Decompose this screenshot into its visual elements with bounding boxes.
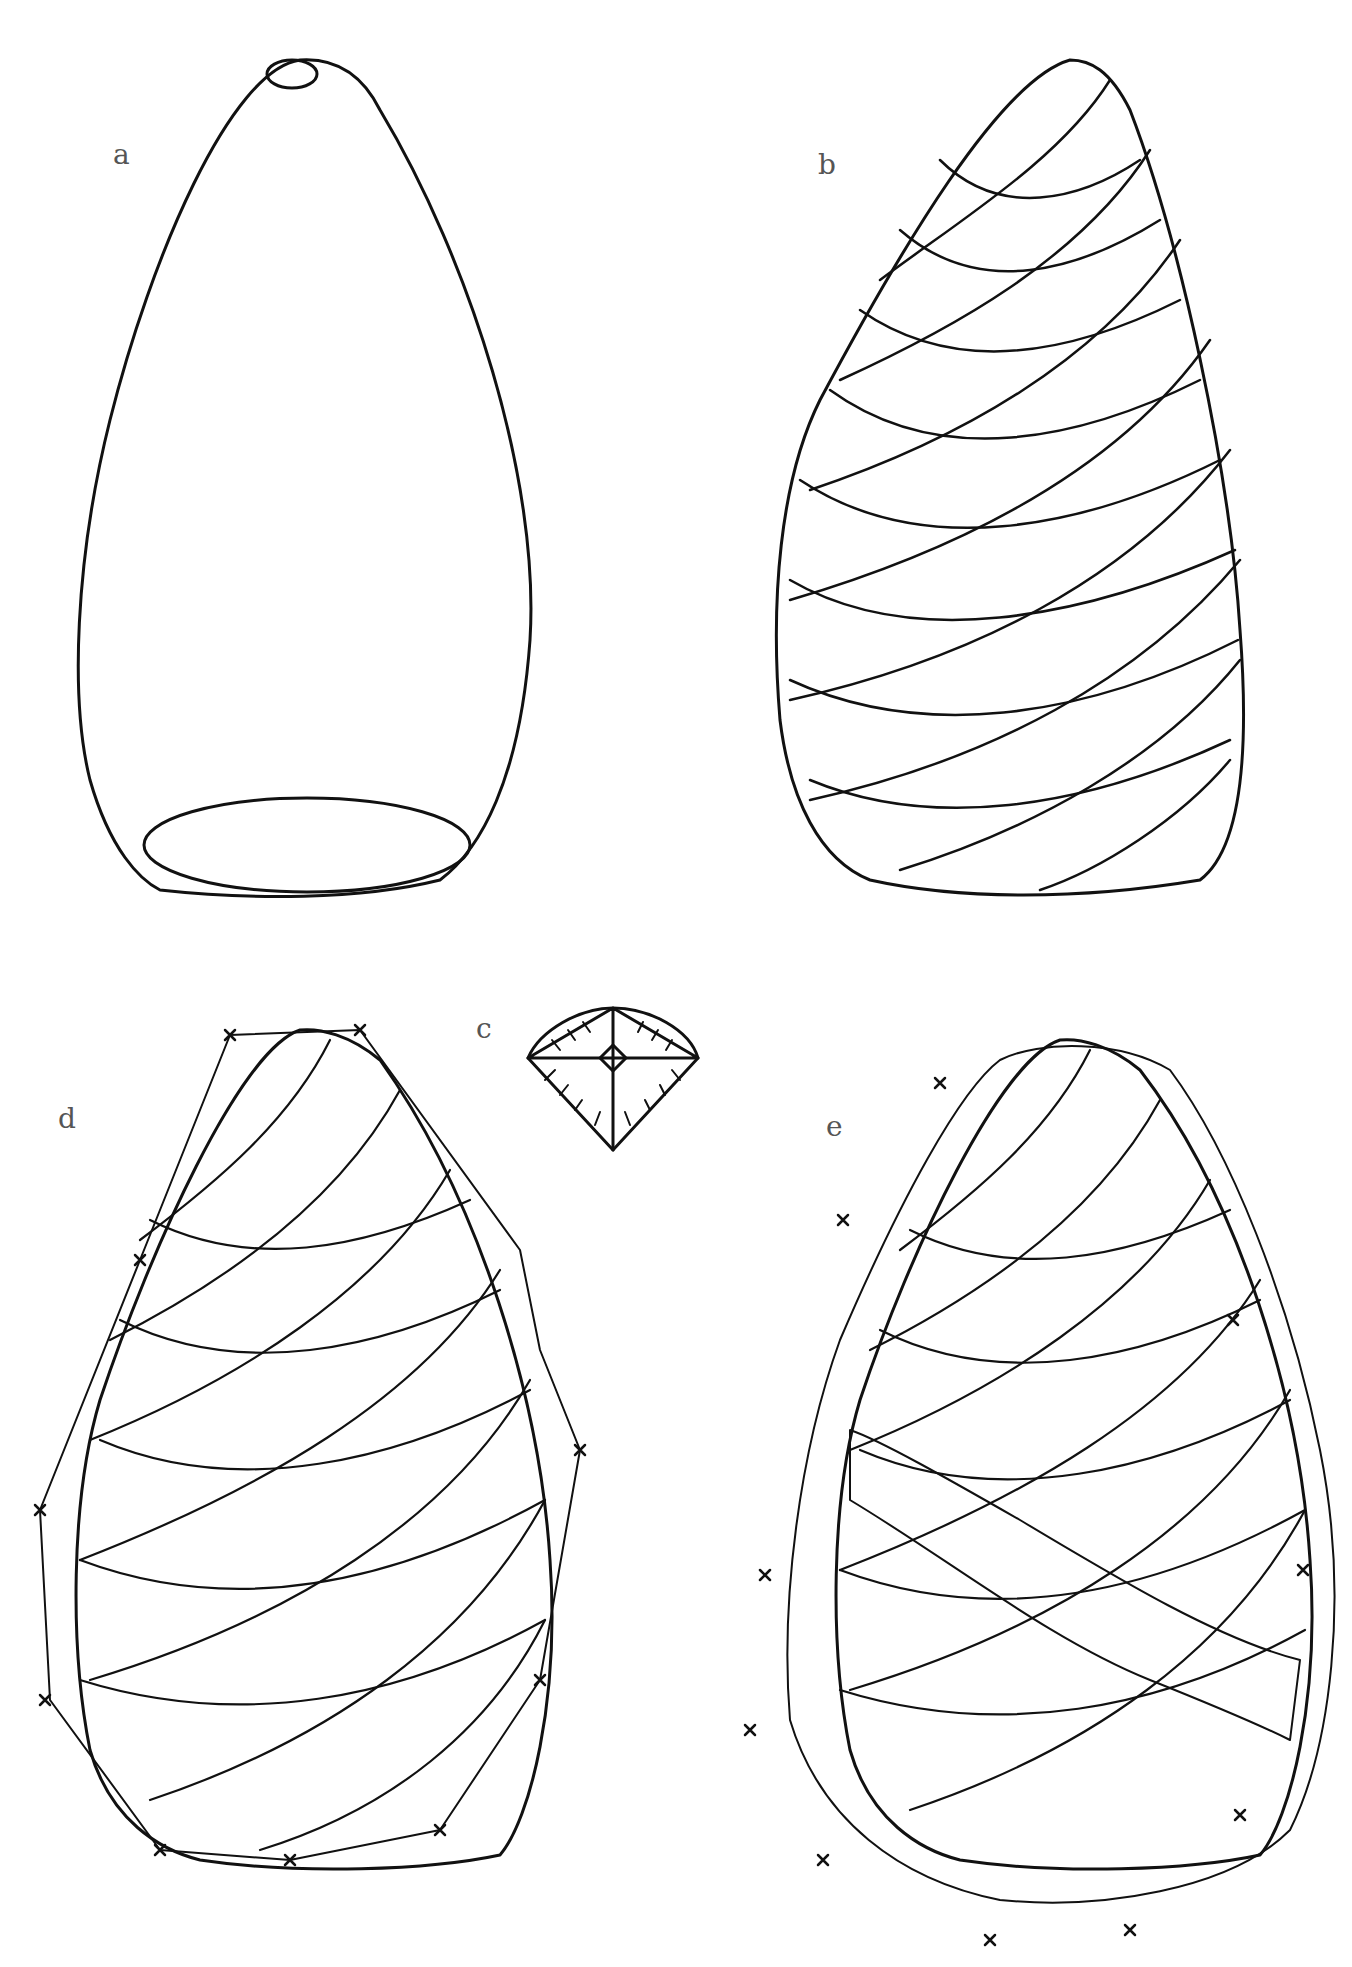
panel-a-shape bbox=[78, 60, 531, 897]
panel-b-shape bbox=[776, 60, 1243, 895]
panel-e-shape bbox=[745, 1040, 1334, 1945]
panel-c-shape bbox=[528, 1008, 698, 1150]
panel-d-shape bbox=[35, 1025, 585, 1869]
cross-marks-d bbox=[35, 1025, 585, 1865]
cross-marks-e bbox=[745, 1078, 1308, 1945]
illustration-canvas bbox=[0, 0, 1352, 1967]
